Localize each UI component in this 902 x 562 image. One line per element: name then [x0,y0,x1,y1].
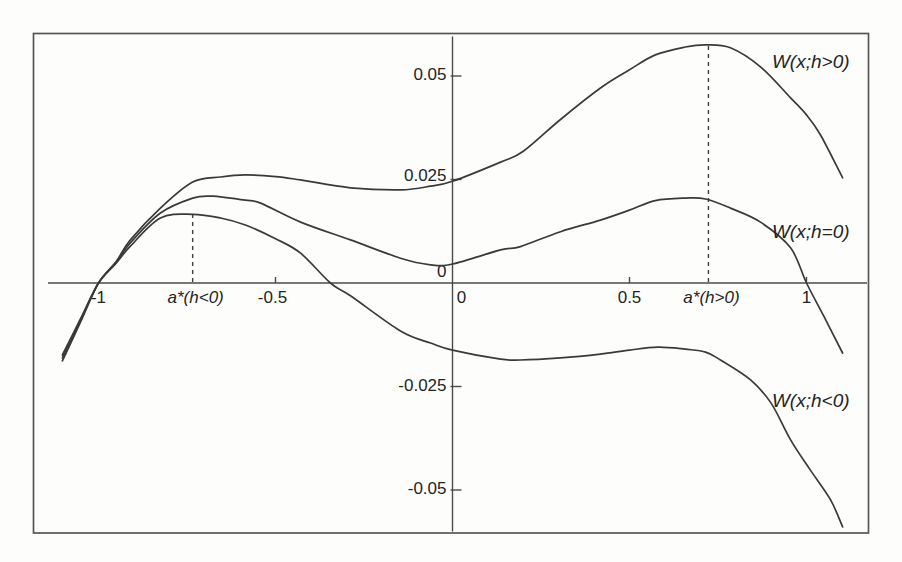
x-tick-label: -0.5 [258,288,287,307]
y-tick-label: 0.025 [404,166,447,185]
x-tick-label: 0.5 [618,288,642,307]
x-tick-label: 0 [457,288,466,307]
y-tick-label: 0.05 [413,65,446,84]
potential-curves-chart: -1-0.500.510.050.0250-0.025-0.05a*(h<0)a… [0,0,902,562]
W-h-zero-label: W(x;h=0) [772,221,850,242]
y-tick-label: -0.025 [398,376,446,395]
a-star-h-neg-label: a*(h<0) [168,288,224,307]
y-tick-label: -0.05 [408,479,447,498]
scanned-figure-page: -1-0.500.510.050.0250-0.025-0.05a*(h<0)a… [0,0,902,562]
W-h-positive-label: W(x;h>0) [772,51,850,72]
a-star-h-pos-label: a*(h>0) [683,288,739,307]
W-h-negative-label: W(x;h<0) [772,390,850,411]
